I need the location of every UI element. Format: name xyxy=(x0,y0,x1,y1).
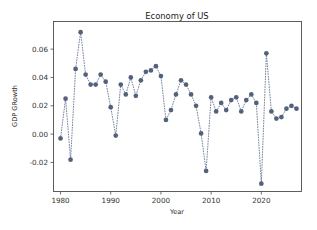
data-point xyxy=(234,95,239,100)
data-point xyxy=(259,181,264,186)
data-point xyxy=(78,30,83,35)
x-tick-label: 2010 xyxy=(202,196,221,205)
data-point xyxy=(254,101,259,106)
data-point xyxy=(88,82,93,87)
data-point xyxy=(284,106,289,111)
data-point xyxy=(144,69,149,74)
y-axis-title: GDP GRowth xyxy=(11,85,19,127)
y-tick-label: 0.00 xyxy=(32,130,48,139)
data-point xyxy=(269,109,274,114)
data-point xyxy=(244,98,249,103)
data-point xyxy=(103,79,108,84)
y-tick-label: 0.06 xyxy=(32,45,48,54)
data-point xyxy=(289,103,294,108)
data-point xyxy=(169,108,174,113)
data-point xyxy=(123,92,128,97)
x-tick-label: 1990 xyxy=(102,196,121,205)
data-point xyxy=(239,109,244,114)
y-tick-label: -0.02 xyxy=(29,158,48,167)
y-tick-label: 0.02 xyxy=(32,101,48,110)
data-point xyxy=(219,101,224,106)
chart-title: Economy of US xyxy=(145,11,208,21)
data-point xyxy=(83,72,88,77)
data-point xyxy=(199,131,204,136)
data-point xyxy=(179,78,184,83)
data-point xyxy=(128,75,133,80)
y-tick-label: 0.04 xyxy=(32,73,48,82)
data-point xyxy=(93,82,98,87)
data-point xyxy=(274,116,279,121)
x-tick-label: 1980 xyxy=(51,196,70,205)
data-point xyxy=(159,74,164,79)
data-point xyxy=(229,98,234,103)
x-tick-label: 2000 xyxy=(152,196,171,205)
x-axis-title: Year xyxy=(169,208,184,216)
data-point xyxy=(154,64,159,69)
x-tick-label: 2020 xyxy=(252,196,271,205)
data-point xyxy=(279,115,284,120)
data-point xyxy=(209,95,214,100)
data-point xyxy=(118,82,123,87)
data-point xyxy=(98,72,103,77)
data-point xyxy=(63,96,68,101)
data-point xyxy=(73,67,78,72)
economy-of-us-line-chart: Economy of US 19801990200020102020 -0.02… xyxy=(0,0,317,230)
data-point xyxy=(204,169,209,174)
data-point xyxy=(113,133,118,138)
data-point xyxy=(68,157,73,162)
data-point xyxy=(214,109,219,114)
data-point xyxy=(249,92,254,97)
plot-area-frame xyxy=(54,22,302,192)
data-point xyxy=(164,118,169,123)
data-point xyxy=(224,108,229,113)
data-point xyxy=(294,106,299,111)
data-point xyxy=(133,94,138,99)
chart-figure: Economy of US 19801990200020102020 -0.02… xyxy=(0,0,317,230)
data-point xyxy=(189,92,194,97)
data-point xyxy=(184,82,189,87)
data-point xyxy=(194,103,199,108)
data-point xyxy=(264,51,269,56)
data-point xyxy=(174,92,179,97)
data-point xyxy=(108,105,113,110)
data-point xyxy=(58,136,63,141)
data-point xyxy=(139,78,144,83)
data-point xyxy=(149,68,154,73)
